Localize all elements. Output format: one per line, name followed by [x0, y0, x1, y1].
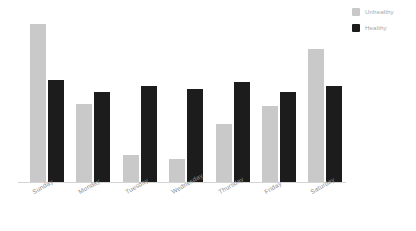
bar-group-saturday — [308, 20, 342, 182]
bar-unhealthy-wednesday[interactable] — [169, 159, 185, 182]
bar-healthy-monday[interactable] — [94, 92, 110, 182]
bar-unhealthy-saturday[interactable] — [308, 49, 324, 182]
legend-label: Unhealthy — [365, 8, 394, 16]
bar-healthy-wednesday[interactable] — [187, 89, 203, 182]
bar-group-sunday — [30, 20, 64, 182]
bar-healthy-tuesday[interactable] — [141, 86, 157, 182]
bar-unhealthy-thursday[interactable] — [216, 124, 232, 182]
legend-swatch-icon — [352, 8, 360, 16]
bar-unhealthy-sunday[interactable] — [30, 24, 46, 182]
legend-item-unhealthy[interactable]: Unhealthy — [352, 7, 416, 17]
bar-unhealthy-friday[interactable] — [262, 106, 278, 182]
bar-unhealthy-monday[interactable] — [76, 104, 92, 182]
bar-group-monday — [76, 20, 110, 182]
bar-group-tuesday — [123, 20, 157, 182]
bar-group-friday — [262, 20, 296, 182]
bar-group-wednesday — [169, 20, 203, 182]
bar-healthy-saturday[interactable] — [326, 86, 342, 182]
legend-item-healthy[interactable]: Healthy — [352, 23, 416, 33]
bar-healthy-thursday[interactable] — [234, 82, 250, 182]
legend-label: Healthy — [365, 24, 387, 32]
bar-chart: UnhealthyHealthy SundayMondayTuesdayWedn… — [0, 0, 416, 231]
x-tick-label-friday: Friday — [263, 180, 283, 195]
bar-group-thursday — [216, 20, 250, 182]
legend-swatch-icon — [352, 24, 360, 32]
x-axis-labels: SundayMondayTuesdayWednesdayThursdayFrid… — [0, 182, 416, 231]
bar-unhealthy-tuesday[interactable] — [123, 155, 139, 182]
plot-area — [18, 20, 345, 182]
chart-legend: UnhealthyHealthy — [352, 7, 416, 33]
bar-healthy-friday[interactable] — [280, 92, 296, 182]
bar-healthy-sunday[interactable] — [48, 80, 64, 182]
